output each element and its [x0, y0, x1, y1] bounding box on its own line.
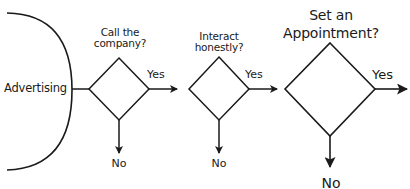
decision-1-no-label: No	[112, 158, 127, 169]
decision-1-yes-label: Yes	[147, 69, 165, 80]
decision-1-question: Call the company?	[94, 27, 146, 49]
flowchart: Advertising Call the company? Yes No Int…	[0, 0, 410, 189]
decision-diamond-1	[89, 58, 149, 120]
decision-3-yes-label: Yes	[372, 68, 393, 81]
decision-2-no-label: No	[212, 158, 227, 169]
decision-diamond-2	[189, 57, 249, 120]
decision-3-question-line1: Set an	[283, 6, 379, 24]
decision-diamond-3	[285, 43, 375, 136]
decision-3-no-label: No	[321, 176, 340, 189]
decision-2-question-line2: honestly?	[195, 42, 244, 53]
decision-2-yes-label: Yes	[245, 69, 263, 80]
decision-1-question-line2: company?	[94, 38, 146, 49]
decision-2-question: Interact honestly?	[195, 31, 244, 53]
start-label: Advertising	[4, 83, 67, 95]
decision-3-question-line2: Appointment?	[283, 24, 379, 42]
decision-3-question: Set an Appointment?	[283, 6, 379, 42]
